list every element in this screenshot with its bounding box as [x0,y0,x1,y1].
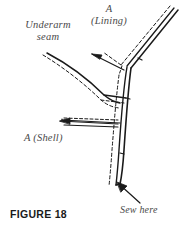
shell-curve-dashed [43,55,119,108]
shell-flap-bottom-edge [64,125,118,127]
label-underarm-line2: seam [12,31,84,43]
vertical-strip-outer-edge [120,68,131,184]
label-underarm-seam: Underarm seam [12,19,84,43]
label-sew-here: Sew here [120,204,158,216]
label-a-shell: A (Shell) [24,132,63,144]
leader-arrow-lining-head [92,54,102,59]
strip-bottom-closure [116,184,120,185]
lining-flap-dashed-top [103,52,121,65]
label-a-lining: A (Lining) [82,3,136,27]
shell-flap-dashed-edge [64,118,118,120]
figure-caption: FIGURE 18 [10,208,67,220]
label-lining-line1: A [106,3,113,14]
label-lining-line2: (Lining) [82,15,136,27]
figure-container: Underarm seam A (Lining) A (Shell) Sew h… [0,0,179,230]
label-underarm-line1: Underarm [25,19,70,30]
lining-strip-outer-edge [131,10,178,68]
